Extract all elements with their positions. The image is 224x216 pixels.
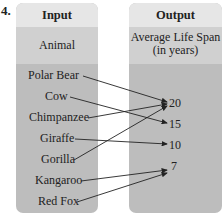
arrow-polar-bear-20 <box>83 76 167 102</box>
arrow-giraffe-10 <box>75 139 167 144</box>
mapping-arrows <box>0 0 224 216</box>
arrow-red-fox-7 <box>77 173 167 202</box>
arrow-chimpanzee-20 <box>88 104 167 118</box>
arrow-cow-15 <box>70 97 167 123</box>
arrow-kangaroo-7 <box>81 170 167 181</box>
arrow-gorilla-20 <box>74 106 167 160</box>
